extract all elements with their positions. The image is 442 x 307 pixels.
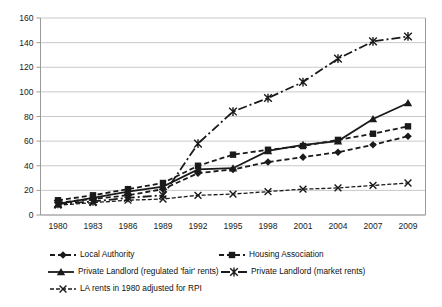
x-tick-label: 1980 bbox=[49, 221, 68, 231]
x-tick-label: 1992 bbox=[189, 221, 208, 231]
legend-item-local-authority: Local Authority bbox=[50, 249, 134, 260]
y-tick-label: 160 bbox=[19, 13, 33, 23]
series-private-landlord-market-rents bbox=[54, 32, 412, 208]
rent-chart-plot-area: 0204060801001201401601980198319861989199… bbox=[0, 0, 442, 242]
x-tick-label: 2001 bbox=[294, 221, 313, 231]
x-tick-label: 2004 bbox=[329, 221, 348, 231]
y-tick-label: 60 bbox=[24, 136, 34, 146]
x-tick-label: 1989 bbox=[154, 221, 173, 231]
legend-label-la-rents-rpi-adjusted: LA rents in 1980 adjusted for RPI bbox=[80, 283, 202, 294]
x-tick-label: 2009 bbox=[399, 221, 418, 231]
axis-labels: 0204060801001201401601980198319861989199… bbox=[19, 13, 417, 231]
y-tick-label: 80 bbox=[24, 112, 34, 122]
legend-swatch-private-landlord-market-rents bbox=[221, 267, 247, 277]
legend-item-private-landlord-market-rents: Private Landlord (market rents) bbox=[221, 266, 365, 277]
legend-item-private-landlord-fair-rents: Private Landlord (regulated 'fair' rents… bbox=[48, 266, 219, 277]
x-tick-label: 1995 bbox=[224, 221, 243, 231]
legend-swatch-housing-association bbox=[219, 250, 245, 260]
y-tick-label: 0 bbox=[29, 210, 34, 220]
legend-label-private-landlord-fair-rents: Private Landlord (regulated 'fair' rents… bbox=[78, 266, 219, 277]
legend-item-la-rents-rpi-adjusted: LA rents in 1980 adjusted for RPI bbox=[50, 283, 202, 294]
x-tick-label: 1983 bbox=[84, 221, 103, 231]
legend-swatch-local-authority bbox=[50, 250, 76, 260]
y-tick-label: 120 bbox=[19, 62, 33, 72]
legend-swatch-la-rents-rpi-adjusted bbox=[50, 284, 76, 294]
y-tick-label: 20 bbox=[24, 185, 34, 195]
y-tick-label: 40 bbox=[24, 161, 34, 171]
legend-label-private-landlord-market-rents: Private Landlord (market rents) bbox=[251, 266, 365, 277]
rent-trends-chart-figure: 0204060801001201401601980198319861989199… bbox=[0, 0, 442, 307]
x-tick-label: 1986 bbox=[119, 221, 138, 231]
legend-item-housing-association: Housing Association bbox=[219, 249, 324, 260]
y-tick-label: 140 bbox=[19, 38, 33, 48]
series-housing-association bbox=[55, 123, 411, 203]
legend-swatch-private-landlord-fair-rents bbox=[48, 267, 74, 277]
x-tick-label: 1998 bbox=[259, 221, 278, 231]
legend-label-housing-association: Housing Association bbox=[249, 249, 324, 260]
y-tick-label: 100 bbox=[19, 87, 33, 97]
series-la-rents-in-1980-adjusted-for-rpi bbox=[55, 180, 412, 209]
x-tick-label: 2007 bbox=[364, 221, 383, 231]
legend-label-local-authority: Local Authority bbox=[80, 249, 134, 260]
